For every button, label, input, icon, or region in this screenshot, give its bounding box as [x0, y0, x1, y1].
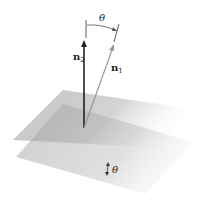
- n1-label: n1: [111, 62, 123, 75]
- theta-planes-label: θ: [112, 164, 118, 175]
- n1-extension-line: [114, 24, 119, 42]
- n2-arrowhead: [81, 40, 87, 47]
- planes-diagram: θ n2 n1 θ: [0, 0, 203, 202]
- theta-arc-arrowhead: [112, 27, 117, 31]
- n2-label: n2: [73, 51, 85, 64]
- theta-top-label: θ: [99, 12, 105, 23]
- n1-arrowhead: [109, 44, 114, 51]
